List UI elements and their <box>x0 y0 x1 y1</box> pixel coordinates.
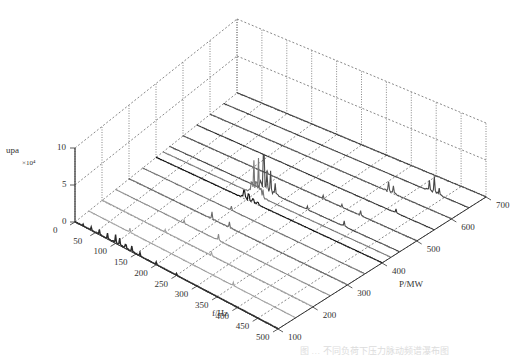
y-tick <box>417 241 422 244</box>
x-axis-title: f/Hz <box>212 309 228 318</box>
y-tick <box>313 307 318 310</box>
y-tick <box>382 263 387 266</box>
x-tick <box>90 233 95 236</box>
y-tick-label: 600 <box>461 223 475 232</box>
x-tick-label: 50 <box>73 237 82 246</box>
x-tick-label: 500 <box>256 333 270 342</box>
x-tick-label: 300 <box>175 290 189 299</box>
z-axis-multiplier: ×10⁴ <box>22 160 35 167</box>
x-tick-label: 200 <box>134 269 148 278</box>
grid-floor <box>75 93 486 329</box>
x-tick <box>253 318 258 321</box>
x-tick <box>192 286 197 289</box>
spectrum-traces <box>75 93 486 329</box>
spectrum-trace <box>224 104 469 208</box>
y-tick <box>347 285 352 288</box>
z-tick-label: 5 <box>62 180 67 189</box>
spectrum-trace <box>163 152 391 257</box>
axes <box>70 148 491 332</box>
z-axis-title: upa <box>6 146 19 155</box>
x-tick-label: 0 <box>53 226 58 235</box>
y-tick-label: 700 <box>496 201 510 210</box>
x-tick <box>273 329 278 332</box>
y-tick-label: 300 <box>357 289 371 298</box>
x-tick <box>151 265 156 268</box>
x-tick <box>232 308 237 311</box>
y-tick <box>486 197 491 200</box>
y-tick-label: 100 <box>288 333 302 342</box>
floor-grid-f <box>156 135 336 265</box>
grid-walls <box>75 19 486 222</box>
figure-caption: 图 … 不同负荷下压力脉动频谱瀑布图 <box>300 344 449 357</box>
x-tick-label: 150 <box>114 258 128 267</box>
y-tick-label: 400 <box>392 267 406 276</box>
x-tick-label: 350 <box>195 301 209 310</box>
x-tick <box>212 297 217 300</box>
y-tick-label: 500 <box>427 245 441 254</box>
x-tick <box>70 222 75 225</box>
y-tick-label: 200 <box>323 311 337 320</box>
x-tick-label: 100 <box>94 247 108 256</box>
z-tick-label: 10 <box>57 143 66 152</box>
x-tick <box>111 243 116 246</box>
x-tick <box>131 254 136 257</box>
x-tick-label: 450 <box>236 322 250 331</box>
x-tick-label: 250 <box>155 280 169 289</box>
y-tick <box>278 329 283 332</box>
z-tick-label: 0 <box>62 217 67 226</box>
y-axis-title: P/MW <box>399 280 423 289</box>
x-tick <box>172 276 177 279</box>
y-tick <box>451 219 456 222</box>
